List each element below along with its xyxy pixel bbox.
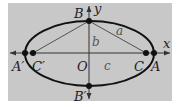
point-C bbox=[143, 50, 149, 56]
label-x-axis: x bbox=[163, 36, 171, 51]
label-a: a bbox=[116, 24, 123, 38]
ellipse-diagram: B y x A′ C′ O c C A b a B′ bbox=[0, 0, 181, 107]
label-y-axis: y bbox=[93, 1, 102, 16]
label-A: A bbox=[150, 59, 160, 74]
label-A-prime: A′ bbox=[11, 59, 24, 74]
label-b: b bbox=[92, 35, 100, 49]
point-A bbox=[151, 50, 157, 56]
point-B-prime bbox=[86, 83, 92, 89]
label-C-prime: C′ bbox=[32, 59, 45, 74]
label-C: C bbox=[134, 59, 144, 74]
label-B: B bbox=[73, 6, 84, 21]
label-O: O bbox=[77, 59, 88, 74]
label-c: c bbox=[104, 59, 111, 73]
point-A-prime bbox=[22, 50, 28, 56]
point-C-prime bbox=[30, 50, 36, 56]
label-B-prime: B′ bbox=[73, 89, 87, 104]
point-B bbox=[86, 18, 92, 24]
